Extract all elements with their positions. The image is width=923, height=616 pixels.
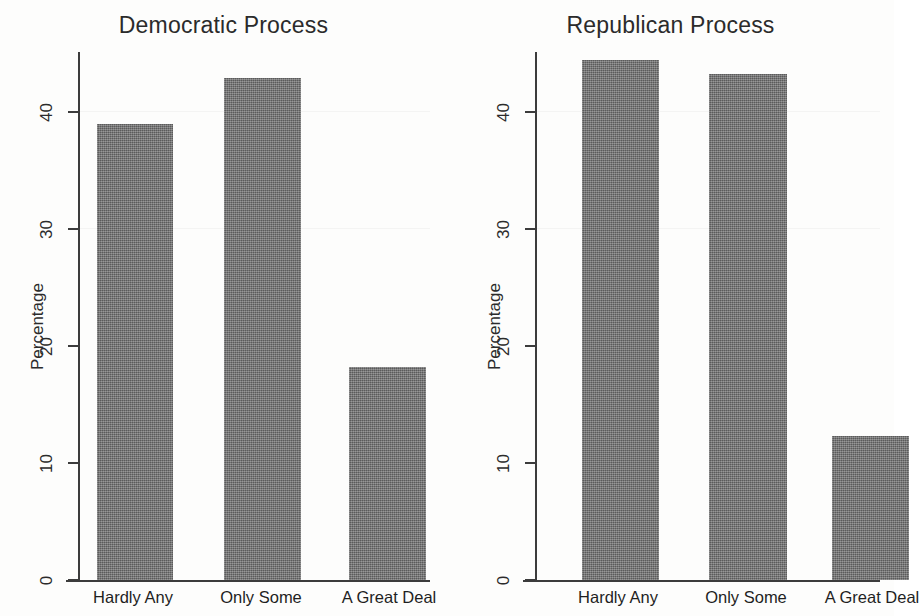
y-axis-title-left: Percentage	[28, 283, 48, 370]
x-category-label-only-some-left: Only Some	[196, 588, 326, 607]
y-tick-10-right	[525, 462, 535, 464]
bar-hardly-any-right[interactable]	[582, 60, 659, 580]
bar-a-great-deal-right[interactable]	[832, 436, 909, 580]
plot-area-democratic: 0 10 20 30 40 Hardly Any Only Some A Gre…	[78, 52, 430, 580]
y-axis-title-right: Percentage	[485, 283, 505, 370]
y-tick-20-left	[68, 345, 78, 347]
y-tick-30-left	[68, 228, 78, 230]
y-tick-20-right	[525, 345, 535, 347]
x-category-label-a-great-deal-right: A Great Deal	[803, 588, 923, 607]
bar-only-some-right[interactable]	[709, 74, 787, 580]
y-tick-40-left	[68, 111, 78, 113]
bar-series-republican	[537, 52, 880, 580]
x-category-label-only-some-right: Only Some	[681, 588, 811, 607]
y-tick-label-30-right: 30	[495, 210, 512, 250]
panel-title-democratic: Democratic Process	[0, 12, 447, 39]
bar-a-great-deal-left[interactable]	[349, 367, 426, 581]
panel-title-republican: Republican Process	[447, 12, 894, 39]
bar-only-some-left[interactable]	[224, 78, 301, 580]
y-tick-label-30-left: 30	[38, 210, 55, 250]
plot-area-republican: 0 10 20 30 40 Hardly Any Only Some A Gre…	[535, 52, 880, 580]
y-tick-label-40-right: 40	[495, 93, 512, 133]
y-tick-0-left	[68, 579, 78, 581]
x-category-label-a-great-deal-left: A Great Deal	[320, 588, 458, 607]
y-tick-label-0-left: 0	[38, 561, 55, 601]
bar-hardly-any-left[interactable]	[97, 124, 173, 580]
x-category-label-hardly-any-right: Hardly Any	[553, 588, 683, 607]
y-tick-10-left	[68, 462, 78, 464]
x-category-label-hardly-any-left: Hardly Any	[68, 588, 198, 607]
chart-panel-republican: Republican Process 0 10 20 30 40 Hardly …	[447, 0, 894, 616]
y-tick-label-40-left: 40	[38, 93, 55, 133]
x-axis-line-left	[66, 580, 430, 582]
y-tick-40-right	[525, 111, 535, 113]
chart-panel-democratic: Democratic Process 0 10 20 30 40 Hardly	[0, 0, 447, 616]
y-tick-label-10-left: 10	[38, 444, 55, 484]
y-tick-label-10-right: 10	[495, 444, 512, 484]
y-tick-30-right	[525, 228, 535, 230]
x-axis-line-right	[523, 580, 880, 582]
bar-series-democratic	[80, 52, 430, 580]
y-tick-0-right	[525, 579, 535, 581]
y-tick-label-0-right: 0	[495, 561, 512, 601]
